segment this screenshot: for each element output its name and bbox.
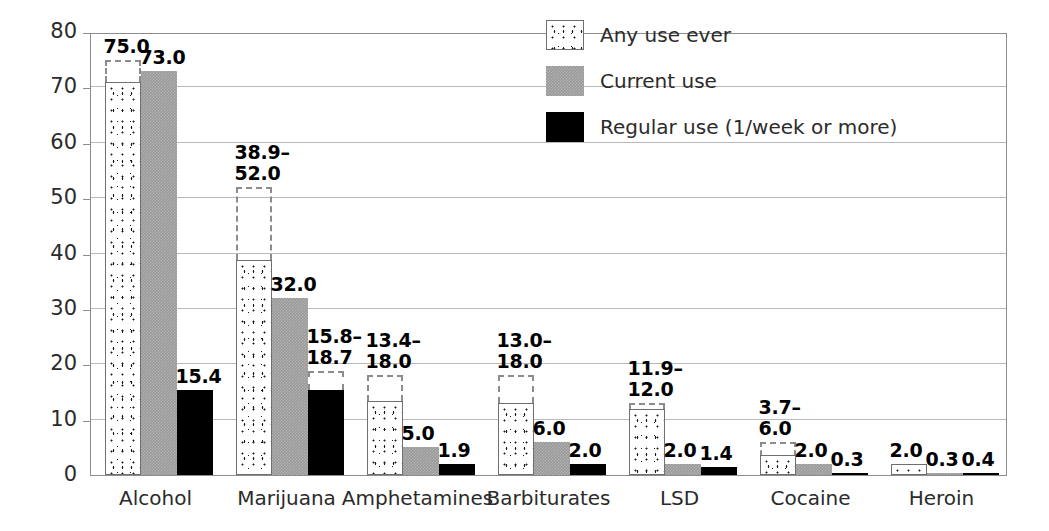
bar[interactable] [141,71,177,475]
y-tick-mark [83,33,90,34]
value-label: 0.3 [926,449,959,470]
value-label: 38.9–52.0 [235,142,290,184]
value-label-line: 15.8– [307,326,362,347]
value-label-line: 0.3 [831,449,864,470]
legend-swatch-gray [546,66,584,96]
value-label: 0.3 [831,449,864,470]
value-label-line: 13.0– [497,330,552,351]
value-label: 15.4 [176,366,222,387]
bar[interactable] [891,464,927,475]
range-extension [498,375,534,403]
bar[interactable] [629,409,665,475]
value-label: 73.0 [140,47,186,68]
value-label-line: 6.0 [759,418,801,439]
x-tick-label: Alcohol [119,486,192,510]
bar[interactable] [534,442,570,475]
bar[interactable] [308,390,344,475]
bar[interactable] [570,464,606,475]
value-label-line: 2.0 [890,440,923,461]
bar[interactable] [498,403,534,475]
y-tick-label: 20 [50,351,77,375]
chart-figure: Percent 01020304050607080 75.073.015.438… [0,0,1049,531]
bar[interactable] [927,473,963,475]
bar-group: 2.00.30.4 [891,34,999,475]
bar[interactable] [177,390,213,475]
value-label: 1.9 [438,440,471,461]
range-extension [105,60,141,82]
bar[interactable] [760,455,796,475]
value-label: 2.0 [569,440,602,461]
bar[interactable] [367,401,403,475]
bar-group: 13.4–18.05.01.9 [367,34,475,475]
bar[interactable] [796,464,832,475]
y-tick-mark [83,199,90,200]
bar[interactable] [272,298,308,475]
value-label-line: 18.7 [307,347,362,368]
bar[interactable] [236,260,272,475]
value-label-line: 12.0 [628,379,683,400]
value-label-line: 73.0 [140,47,186,68]
bar[interactable] [665,464,701,475]
y-tick-mark [83,88,90,89]
value-label-line: 18.0 [497,351,552,372]
value-label: 15.8–18.7 [307,326,362,368]
y-tick-label: 80 [50,19,77,43]
value-label-line: 38.9– [235,142,290,163]
value-label-line: 0.4 [962,449,995,470]
range-extension [236,187,272,260]
legend-item[interactable]: Current use [546,58,876,104]
x-tick-label: Heroin [909,486,975,510]
x-tick-label: Marijuana [237,486,336,510]
value-label: 1.4 [700,443,733,464]
value-label-line: 1.9 [438,440,471,461]
y-tick-label: 50 [50,185,77,209]
y-tick-mark [83,365,90,366]
value-label-line: 52.0 [235,163,290,184]
y-tick-mark [83,255,90,256]
x-tick-label: LSD [660,486,699,510]
range-extension [760,442,796,455]
bar[interactable] [105,82,141,475]
value-label: 13.4–18.0 [366,330,421,372]
legend-label: Regular use (1/week or more) [600,115,897,139]
y-tick-label: 70 [50,74,77,98]
value-label-line: 2.0 [569,440,602,461]
legend-swatch-black [546,112,584,142]
value-label: 3.7–6.0 [759,397,801,439]
value-label-line: 0.3 [926,449,959,470]
legend-item[interactable]: Regular use (1/week or more) [546,104,876,150]
x-tick-label: Barbiturates [486,486,610,510]
legend: Any use everCurrent useRegular use (1/we… [546,12,876,150]
value-label-line: 6.0 [533,418,566,439]
value-label: 5.0 [402,423,435,444]
value-label: 13.0–18.0 [497,330,552,372]
value-label-line: 2.0 [795,440,828,461]
legend-item[interactable]: Any use ever [546,12,876,58]
bar-group: 75.073.015.4 [105,34,213,475]
value-label-line: 5.0 [402,423,435,444]
value-label: 2.0 [795,440,828,461]
legend-swatch-stippled [546,20,584,50]
bar[interactable] [439,464,475,475]
value-label-line: 1.4 [700,443,733,464]
bar[interactable] [403,447,439,475]
y-tick-label: 40 [50,241,77,265]
y-tick-label: 60 [50,130,77,154]
bar[interactable] [832,473,868,475]
value-label: 0.4 [962,449,995,470]
bar[interactable] [701,467,737,475]
value-label-line: 11.9– [628,358,683,379]
x-tick-label: Amphetamines [342,486,493,510]
bar[interactable] [963,473,999,475]
range-extension [367,375,403,400]
value-label-line: 18.0 [366,351,421,372]
value-label-line: 13.4– [366,330,421,351]
value-label: 6.0 [533,418,566,439]
value-label-line: 32.0 [271,274,317,295]
range-extension [308,371,344,389]
bar-group: 38.9–52.032.015.8–18.7 [236,34,344,475]
value-label: 32.0 [271,274,317,295]
value-label: 11.9–12.0 [628,358,683,400]
y-tick-label: 0 [64,462,77,486]
value-label-line: 3.7– [759,397,801,418]
